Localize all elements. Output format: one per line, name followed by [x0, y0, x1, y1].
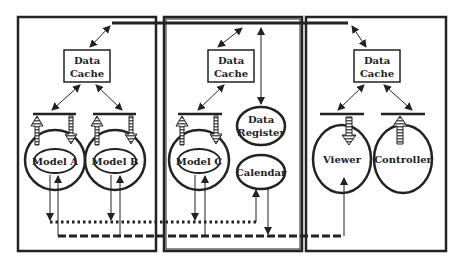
viewer-label: Viewer: [322, 154, 362, 165]
cache-label-line2: Cache: [360, 68, 394, 79]
architecture-diagram: Data Cache Data Cache Data Cache M: [0, 0, 460, 262]
model-b-label: Model B: [92, 156, 139, 167]
cache-label-line2: Cache: [70, 68, 104, 79]
data-cache-left: Data Cache: [64, 50, 110, 82]
model-c: Model C: [169, 116, 229, 190]
data-cache-right: Data Cache: [354, 50, 400, 82]
controller: Controller: [374, 116, 433, 193]
down-arrow-icon: [125, 116, 137, 144]
cache-label-line1: Data: [74, 55, 101, 66]
data-register: Data Register: [237, 107, 285, 145]
model-a-label: Model A: [32, 156, 78, 167]
down-arrow-icon: [342, 117, 356, 145]
calendar: Calendar: [236, 155, 287, 189]
model-a: Model A: [25, 116, 85, 190]
up-arrow-icon: [393, 116, 407, 144]
calendar-label: Calendar: [236, 167, 287, 178]
up-arrow-icon: [176, 116, 188, 145]
data-cache-middle: Data Cache: [208, 50, 254, 82]
viewer: Viewer: [313, 117, 371, 193]
model-b: Model B: [85, 116, 145, 190]
cache-label-line2: Cache: [214, 68, 248, 79]
data-register-label-line2: Register: [237, 127, 285, 138]
cache-label-line1: Data: [364, 55, 391, 66]
down-arrow-icon: [65, 116, 77, 144]
data-register-label-line1: Data: [248, 114, 275, 125]
controller-label: Controller: [374, 154, 432, 165]
model-c-label: Model C: [176, 156, 222, 167]
cache-label-line1: Data: [218, 55, 245, 66]
